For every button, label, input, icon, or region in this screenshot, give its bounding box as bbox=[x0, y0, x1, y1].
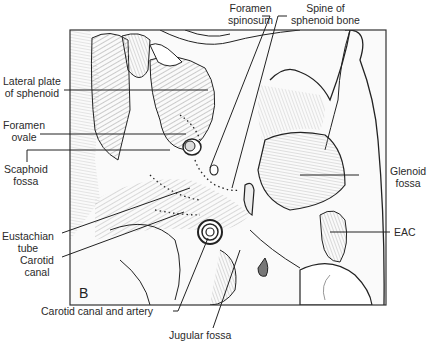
label-spine-of-sphenoid: Spine of sphenoid bone bbox=[291, 2, 360, 26]
label-foramen-spinosum: Foramen spinosum bbox=[228, 2, 273, 26]
label-carotid-canal: Carotid canal bbox=[20, 254, 54, 278]
label-eustachian-tube: Eustachian tube bbox=[2, 230, 54, 254]
label-lateral-plate: Lateral plate of sphenoid bbox=[3, 75, 61, 99]
panel-letter: B bbox=[79, 285, 88, 301]
label-jugular-fossa: Jugular fossa bbox=[169, 329, 231, 341]
label-eac: EAC bbox=[394, 226, 416, 238]
label-foramen-ovale: Foramen ovale bbox=[3, 119, 45, 143]
label-scaphoid-fossa: Scaphoid fossa bbox=[4, 163, 48, 187]
label-carotid-canal-artery: Carotid canal and artery bbox=[41, 305, 153, 317]
bone-drawing bbox=[70, 30, 386, 305]
label-glenoid-fossa: Glenoid fossa bbox=[390, 165, 426, 189]
anatomical-illustration bbox=[0, 0, 427, 342]
